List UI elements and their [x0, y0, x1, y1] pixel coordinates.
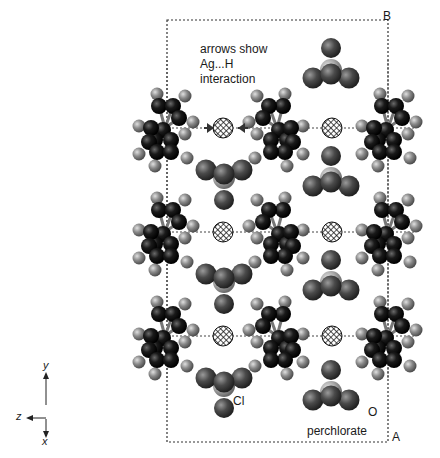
aromatic-ring: [243, 192, 310, 277]
hydrogen-atom: [187, 220, 200, 233]
carbon-atom: [151, 98, 167, 114]
oxygen-atom: [232, 368, 253, 389]
carbon-atom: [143, 224, 159, 240]
hydrogen-atom: [404, 256, 417, 269]
perchlorate-ion: [303, 360, 360, 411]
carbon-atom: [275, 98, 291, 114]
aromatic-ring: [356, 192, 423, 277]
carbon-atom: [277, 248, 293, 264]
axis-label-y: y: [43, 359, 49, 371]
annotation-line: interaction: [200, 72, 267, 87]
axis-label-x: x: [42, 435, 48, 447]
hydrogen-atom: [410, 116, 423, 129]
carbon-atom: [171, 110, 187, 126]
oxygen-atom: [321, 386, 342, 407]
carbon-atom: [394, 318, 410, 334]
oxygen-atom: [321, 360, 341, 380]
ag-h-interaction-arrow: [204, 123, 214, 133]
carbon-atom: [277, 352, 293, 368]
arrowhead-icon: [207, 123, 214, 133]
oxygen-atom: [214, 268, 235, 289]
carbon-atom: [163, 248, 179, 264]
hydrogen-atom: [297, 148, 310, 161]
silver-atom: [322, 222, 342, 242]
carbon-atom: [149, 144, 165, 160]
carbon-atom: [374, 98, 390, 114]
hydrogen-atom: [251, 298, 264, 311]
annotation-note: arrows show Ag...H interaction: [200, 42, 267, 87]
perchlorate-ion: [196, 264, 253, 315]
hydrogen-atom: [249, 152, 262, 165]
oxygen-atom: [303, 68, 324, 89]
oxygen-atom: [214, 190, 234, 210]
hydrogen-atom: [404, 152, 417, 165]
hydrogen-atom: [179, 232, 192, 245]
oxygen-atom: [321, 38, 341, 58]
oxygen-atom: [321, 172, 342, 193]
oxygen-atom: [196, 160, 217, 181]
hydrogen-atom: [402, 298, 415, 311]
carbon-atom: [386, 248, 402, 264]
carbon-atom: [149, 248, 165, 264]
hydrogen-atom: [251, 232, 264, 245]
perchlorate-ion: [303, 146, 360, 197]
hydrogen-atom: [402, 128, 415, 141]
carbon-atom: [255, 110, 271, 126]
carbon-atom: [143, 328, 159, 344]
hydrogen-atom: [402, 90, 415, 103]
oxygen-atom: [303, 390, 324, 411]
aromatic-ring: [243, 88, 310, 173]
hydrogen-atom: [281, 368, 294, 381]
chlorine-label: Cl: [233, 394, 244, 408]
carbon-atom: [366, 224, 382, 240]
hydrogen-atom: [297, 356, 310, 369]
hydrogen-atom: [372, 368, 385, 381]
hydrogen-atom: [402, 194, 415, 207]
arrowhead-icon: [238, 123, 245, 133]
aromatic-ring: [133, 192, 200, 277]
hydrogen-atom: [133, 148, 146, 161]
perchlorate-label: perchlorate: [307, 424, 367, 438]
silver-atom: [322, 326, 342, 346]
axes-orientation-icon: [26, 372, 49, 438]
hydrogen-atom: [187, 116, 200, 129]
carbon-atom: [143, 120, 159, 136]
aromatic-ring: [243, 296, 310, 381]
hydrogen-atom: [251, 90, 264, 103]
oxygen-atom: [214, 398, 234, 418]
corner-label-b: B: [383, 9, 391, 23]
hydrogen-atom: [281, 264, 294, 277]
carbon-atom: [171, 214, 187, 230]
carbon-atom: [263, 248, 279, 264]
axis-label-z: z: [16, 410, 22, 422]
carbon-atom: [394, 214, 410, 230]
oxygen-atom: [339, 176, 360, 197]
hydrogen-atom: [404, 360, 417, 373]
hydrogen-atom: [356, 252, 369, 265]
silver-atom: [322, 118, 342, 138]
hydrogen-atom: [133, 252, 146, 265]
hydrogen-atom: [410, 220, 423, 233]
atoms: [133, 38, 423, 418]
hydrogen-atom: [356, 148, 369, 161]
hydrogen-atom: [410, 324, 423, 337]
oxygen-label: O: [368, 405, 377, 419]
hydrogen-atom: [243, 220, 256, 233]
hydrogen-atom: [179, 194, 192, 207]
carbon-atom: [163, 144, 179, 160]
oxygen-atom: [303, 176, 324, 197]
carbon-atom: [366, 120, 382, 136]
oxygen-atom: [232, 264, 253, 285]
oxygen-atom: [303, 280, 324, 301]
hydrogen-atom: [251, 194, 264, 207]
carbon-atom: [372, 144, 388, 160]
oxygen-atom: [321, 276, 342, 297]
hydrogen-atom: [179, 336, 192, 349]
hydrogen-atom: [297, 252, 310, 265]
carbon-atom: [151, 306, 167, 322]
hydrogen-atom: [149, 368, 162, 381]
hydrogen-atom: [372, 160, 385, 173]
oxygen-atom: [232, 160, 253, 181]
aromatic-ring: [133, 296, 200, 381]
aromatic-ring: [356, 88, 423, 173]
